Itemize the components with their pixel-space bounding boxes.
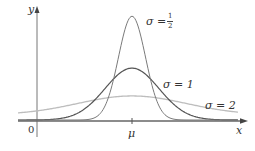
fraction-one-half: 1 2 (167, 13, 173, 30)
x-axis-label: x (236, 125, 242, 136)
sigma-one-label: σ = 1 (163, 79, 194, 90)
sigma-two-label: σ = 2 (205, 100, 236, 111)
sigma-half-prefix: σ = (146, 16, 166, 27)
x-axis-arrow-icon (240, 118, 248, 124)
curve-sigma-1 (18, 68, 238, 120)
axes (18, 6, 248, 137)
sigma-half-label: σ = 1 2 (146, 13, 173, 30)
y-axis-label: y (28, 4, 34, 15)
y-axis-arrow-icon (35, 6, 40, 13)
origin-label: 0 (28, 125, 34, 135)
fraction-denominator: 2 (168, 23, 172, 30)
mu-label: μ (128, 128, 135, 139)
fraction-numerator: 1 (168, 13, 172, 20)
